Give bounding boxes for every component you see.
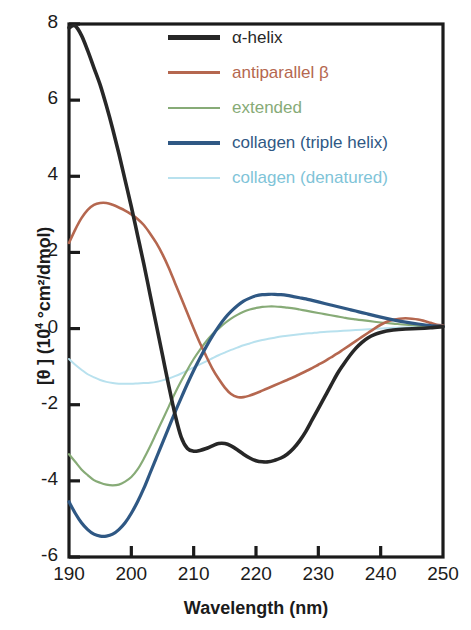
y-tick-label: -4 bbox=[16, 468, 58, 490]
legend-label: collagen (denatured) bbox=[232, 168, 388, 188]
legend-item: antiparallel β bbox=[168, 55, 388, 90]
series-line-extended bbox=[69, 306, 443, 485]
legend-item: α-helix bbox=[168, 20, 388, 55]
y-axis-title-main: [θ ] (10 bbox=[34, 329, 54, 385]
legend-item: collagen (triple helix) bbox=[168, 125, 388, 160]
series-line-collagen-denatured bbox=[69, 327, 443, 384]
y-axis-title-exponent: 4 bbox=[33, 323, 45, 329]
legend-label: collagen (triple helix) bbox=[232, 133, 388, 153]
y-axis-title: [θ ] (104 °cm²/dmol) bbox=[33, 166, 55, 446]
legend-label: extended bbox=[232, 98, 302, 118]
legend-swatch bbox=[168, 141, 220, 145]
x-tick-label: 210 bbox=[164, 563, 224, 585]
cd-spectra-figure: 86420-2-4-6 190200210220230240250 [θ ] (… bbox=[0, 0, 471, 630]
y-tick-label: 6 bbox=[16, 87, 58, 109]
legend-item: collagen (denatured) bbox=[168, 160, 388, 195]
x-tick-label: 200 bbox=[101, 563, 161, 585]
legend-label: antiparallel β bbox=[232, 63, 329, 83]
legend-swatch bbox=[168, 107, 220, 109]
legend-swatch bbox=[168, 177, 220, 179]
y-tick-label: 8 bbox=[16, 11, 58, 33]
x-tick-label: 240 bbox=[351, 563, 411, 585]
x-axis-title: Wavelength (nm) bbox=[69, 598, 443, 619]
y-axis-title-tail: °cm²/dmol) bbox=[34, 227, 54, 323]
legend-swatch bbox=[168, 35, 220, 40]
x-tick-label: 250 bbox=[413, 563, 471, 585]
legend: α-helixantiparallel βextendedcollagen (t… bbox=[168, 20, 388, 195]
x-tick-label: 230 bbox=[288, 563, 348, 585]
series-line-antiparallel bbox=[69, 203, 443, 398]
legend-label: α-helix bbox=[232, 28, 282, 48]
x-tick-label: 190 bbox=[39, 563, 99, 585]
legend-item: extended bbox=[168, 90, 388, 125]
legend-swatch bbox=[168, 71, 220, 74]
x-tick-label: 220 bbox=[226, 563, 286, 585]
